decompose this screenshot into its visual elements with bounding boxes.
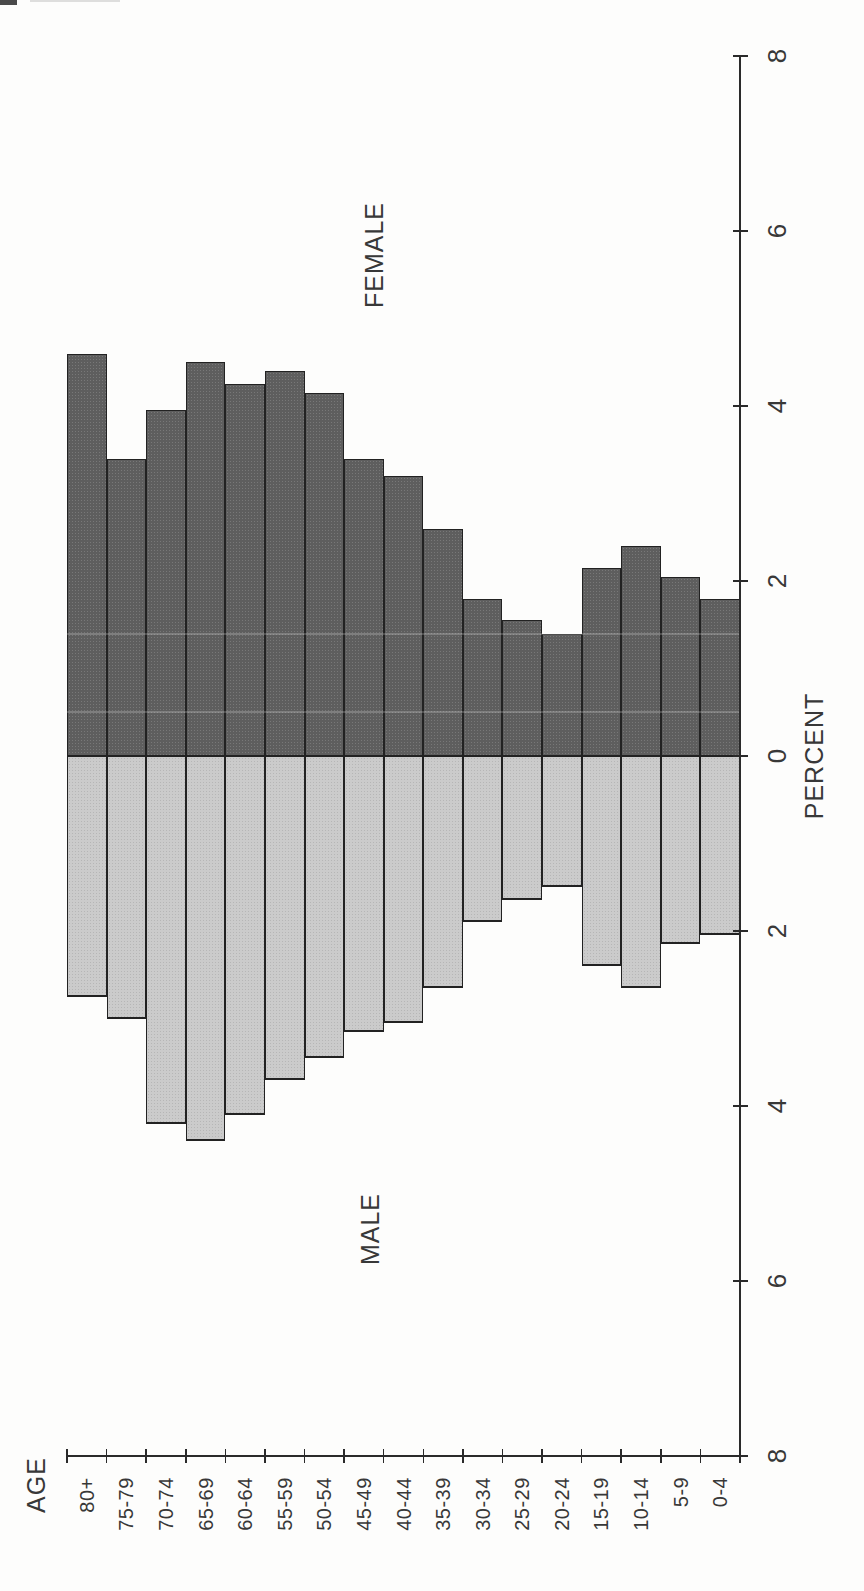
age-tick-9 [423,1449,425,1463]
age-label-35-39: 35-39 [432,1477,455,1531]
age-tick-7 [343,1449,345,1463]
bar-female-15-19 [582,568,622,756]
age-label-55-59: 55-59 [273,1477,296,1531]
bar-male-55-59 [265,756,305,1080]
percent-tick-0-4 [733,755,748,757]
bar-female-80+ [67,354,107,757]
percent-tick-2-5 [733,930,748,932]
female-series-label: FEMALE [360,202,389,308]
age-label-65-69: 65-69 [194,1477,217,1531]
age-tick-3 [185,1449,187,1463]
age-tick-6 [304,1449,306,1463]
bar-male-5-9 [661,756,701,944]
age-tick-13 [581,1449,583,1463]
bar-female-5-9 [661,577,701,756]
age-tick-17 [739,1449,741,1463]
percent-tick-label-4: 0 [762,749,793,763]
bar-male-70-74 [146,756,186,1124]
percent-tick-label-0: 8 [762,49,793,63]
age-label-15-19: 15-19 [590,1477,613,1531]
age-label-40-44: 40-44 [392,1477,415,1531]
percent-tick-label-7: 6 [762,1274,793,1288]
age-label-5-9: 5-9 [669,1477,692,1507]
age-label-75-79: 75-79 [115,1477,138,1531]
age-tick-16 [700,1449,702,1463]
age-tick-15 [660,1449,662,1463]
bar-female-65-69 [186,362,226,756]
age-label-25-29: 25-29 [511,1477,534,1531]
bar-female-55-59 [265,371,305,756]
bar-female-45-49 [344,459,384,757]
percent-tick-4-2 [733,405,748,407]
age-axis-line [67,1455,741,1457]
age-tick-2 [145,1449,147,1463]
age-tick-11 [502,1449,504,1463]
age-label-80+: 80+ [75,1477,98,1512]
bar-male-15-19 [582,756,622,966]
age-label-30-34: 30-34 [471,1477,494,1531]
age-label-60-64: 60-64 [234,1477,257,1531]
age-tick-4 [225,1449,227,1463]
age-label-50-54: 50-54 [313,1477,336,1531]
age-tick-12 [541,1449,543,1463]
bar-female-20-24 [542,634,582,757]
scan-artifact-corner-mark [0,0,17,5]
bar-female-40-44 [384,476,424,756]
bar-male-75-79 [107,756,147,1019]
bar-female-60-64 [225,384,265,756]
bar-female-25-29 [502,620,542,756]
age-axis-title: AGE [22,1457,51,1513]
bar-male-25-29 [502,756,542,900]
age-label-45-49: 45-49 [352,1477,375,1531]
percent-tick-6-1 [733,230,748,232]
bar-female-30-34 [463,599,503,757]
bar-male-45-49 [344,756,384,1032]
percent-tick-8-0 [733,55,748,57]
bar-female-35-39 [423,529,463,757]
bar-male-65-69 [186,756,226,1141]
age-label-70-74: 70-74 [154,1477,177,1531]
bar-male-20-24 [542,756,582,887]
percent-tick-label-1: 6 [762,224,793,238]
age-label-0-4: 0-4 [709,1477,732,1507]
age-tick-10 [462,1449,464,1463]
bar-female-75-79 [107,459,147,757]
percent-tick-label-6: 4 [762,1099,793,1113]
bar-male-60-64 [225,756,265,1115]
percent-tick-4-6 [733,1105,748,1107]
percent-tick-6-7 [733,1280,748,1282]
bar-male-80+ [67,756,107,997]
bar-male-40-44 [384,756,424,1023]
bar-male-30-34 [463,756,503,922]
bar-female-10-14 [621,546,661,756]
bar-female-70-74 [146,410,186,756]
percent-tick-label-5: 2 [762,924,793,938]
percent-tick-2-3 [733,580,748,582]
bar-female-50-54 [305,393,345,756]
percent-tick-label-2: 4 [762,399,793,413]
bar-female-0-4 [700,599,740,757]
percent-tick-label-3: 2 [762,574,793,588]
scan-artifact-top-streak [30,0,120,2]
age-label-10-14: 10-14 [630,1477,653,1531]
age-tick-0 [66,1449,68,1463]
age-tick-14 [620,1449,622,1463]
bar-male-10-14 [621,756,661,988]
percent-tick-label-8: 8 [762,1449,793,1463]
percent-axis-title: PERCENT [800,693,829,819]
bar-male-50-54 [305,756,345,1058]
age-label-20-24: 20-24 [550,1477,573,1531]
male-series-label: MALE [356,1193,385,1265]
bar-male-0-4 [700,756,740,935]
age-tick-5 [264,1449,266,1463]
age-tick-1 [106,1449,108,1463]
scanned-chart-page: FEMALE MALE PERCENT AGE 86420246880+75-7… [0,0,864,1591]
bar-male-35-39 [423,756,463,988]
age-tick-8 [383,1449,385,1463]
